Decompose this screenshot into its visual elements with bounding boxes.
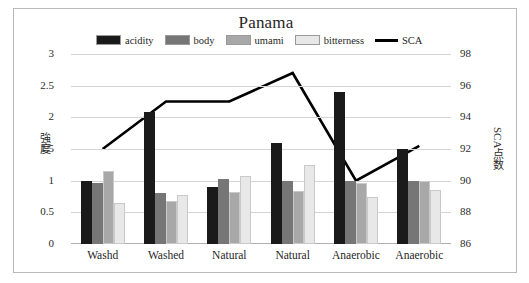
bar-group-2 [207, 54, 251, 244]
legend-label: acidity [125, 35, 154, 46]
bar-acidity[interactable] [271, 143, 282, 244]
legend-label: bitterness [324, 35, 364, 46]
gridline [71, 149, 451, 150]
bar-umami[interactable] [166, 201, 177, 244]
y-tick-left: 2.5 [14, 79, 54, 91]
chart-legend: aciditybodyumamibitternessSCA [96, 33, 456, 47]
bar-bitterness[interactable] [177, 195, 188, 244]
legend-swatch-SCA-icon [375, 39, 398, 42]
bar-umami[interactable] [293, 191, 304, 244]
bar-umami[interactable] [356, 183, 367, 244]
gridline [71, 117, 451, 118]
legend-label: umami [255, 35, 284, 46]
legend-swatch-acidity-icon [96, 35, 121, 45]
bar-umami[interactable] [419, 181, 430, 244]
bar-umami[interactable] [229, 192, 240, 244]
y-tick-left: 2 [14, 110, 54, 122]
bar-body[interactable] [282, 181, 293, 244]
gridline [71, 54, 451, 55]
gridline [71, 86, 451, 87]
legend-item-umami[interactable]: umami [226, 35, 284, 46]
bar-bitterness[interactable] [114, 203, 125, 244]
y-tick-left: 1.5 [14, 142, 54, 154]
legend-swatch-umami-icon [226, 35, 251, 45]
bar-group-1 [144, 54, 188, 244]
y-tick-left: 0.5 [14, 205, 54, 217]
y-axis-label-right: SCA点数 [490, 127, 506, 170]
legend-item-acidity[interactable]: acidity [96, 35, 154, 46]
legend-item-body[interactable]: body [165, 35, 215, 46]
bar-acidity[interactable] [207, 187, 218, 244]
y-tick-left: 1 [14, 174, 54, 186]
y-tick-right: 88 [460, 205, 490, 217]
bar-body[interactable] [155, 193, 166, 244]
gridline [71, 181, 451, 182]
bar-group-4 [334, 54, 378, 244]
legend-item-SCA[interactable]: SCA [375, 35, 422, 46]
bar-body[interactable] [345, 181, 356, 244]
bar-acidity[interactable] [334, 92, 345, 244]
bar-body[interactable] [408, 181, 419, 244]
plot-area [71, 54, 451, 244]
y-tick-right: 90 [460, 174, 490, 186]
bar-bitterness[interactable] [304, 165, 315, 244]
x-tick-label: Anaerobic [378, 249, 461, 261]
bar-bitterness[interactable] [240, 176, 251, 244]
y-tick-right: 92 [460, 142, 490, 154]
y-tick-right: 86 [460, 237, 490, 249]
bar-group-5 [397, 54, 441, 244]
bar-umami[interactable] [103, 171, 114, 244]
y-tick-left: 3 [14, 47, 54, 59]
chart-title: Panama [14, 13, 518, 33]
bar-acidity[interactable] [144, 112, 155, 244]
bar-group-0 [81, 54, 125, 244]
chart-container: Panama aciditybodyumamibitternessSCA 強度 … [13, 8, 517, 273]
y-tick-left: 0 [14, 237, 54, 249]
bar-bitterness[interactable] [430, 190, 441, 244]
bar-body[interactable] [92, 183, 103, 244]
bar-acidity[interactable] [81, 181, 92, 244]
legend-item-bitterness[interactable]: bitterness [295, 35, 364, 46]
bar-body[interactable] [218, 179, 229, 244]
y-tick-right: 94 [460, 110, 490, 122]
legend-swatch-bitterness-icon [295, 35, 320, 45]
legend-swatch-body-icon [165, 35, 190, 45]
bar-bitterness[interactable] [367, 197, 378, 245]
gridline [71, 212, 451, 213]
bar-group-3 [271, 54, 315, 244]
bar-acidity[interactable] [397, 149, 408, 244]
y-tick-right: 96 [460, 79, 490, 91]
y-tick-right: 98 [460, 47, 490, 59]
legend-label: SCA [402, 35, 422, 46]
legend-label: body [194, 35, 215, 46]
